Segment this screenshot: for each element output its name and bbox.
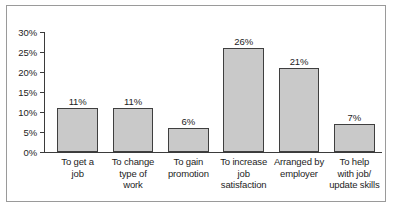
bar-0[interactable]: 11% <box>57 108 98 152</box>
bar-5[interactable]: 7% <box>334 124 375 152</box>
y-tick-label: 20% <box>18 67 37 78</box>
category-label-5: To help with job/ update skills <box>327 156 382 191</box>
y-tick-mark <box>40 52 44 53</box>
y-tick-label: 0% <box>23 147 37 158</box>
y-tick-label: 15% <box>18 87 37 98</box>
bar-value-label: 11% <box>124 96 142 107</box>
category-label-2: To gain promotion <box>161 156 216 179</box>
bar-value-label: 26% <box>234 36 253 47</box>
bar-chart-figure: 30% 25% 20% 15% 10% 5% 0% 11% <box>6 5 386 202</box>
y-tick-label: 25% <box>18 47 37 58</box>
bar-2[interactable]: 6% <box>168 128 209 152</box>
bar-value-label: 11% <box>69 96 87 107</box>
y-tick-label: 5% <box>23 127 37 138</box>
y-tick-mark <box>40 92 44 93</box>
y-tick-mark <box>40 112 44 113</box>
bar-value-label: 7% <box>348 112 362 123</box>
y-tick-mark <box>40 32 44 33</box>
y-tick-mark <box>40 72 44 73</box>
plot-area: 30% 25% 20% 15% 10% 5% 0% 11% <box>44 32 382 152</box>
y-axis-line <box>44 32 45 152</box>
category-label-4: Arranged by employer <box>271 156 326 179</box>
y-tick-mark <box>40 132 44 133</box>
y-tick-mark <box>40 152 44 153</box>
bar-value-label: 6% <box>182 116 196 127</box>
category-label-1: To change type of work <box>105 156 160 191</box>
bar-1[interactable]: 11% <box>113 108 154 152</box>
y-tick-label: 10% <box>18 107 37 118</box>
bar-4[interactable]: 21% <box>279 68 320 152</box>
y-tick-label: 30% <box>18 27 37 38</box>
category-label-3: To increase job satisfaction <box>216 156 271 191</box>
bar-3[interactable]: 26% <box>223 48 264 152</box>
bar-value-label: 21% <box>290 56 309 67</box>
x-axis-line <box>44 152 382 153</box>
category-label-0: To get a job <box>50 156 105 179</box>
